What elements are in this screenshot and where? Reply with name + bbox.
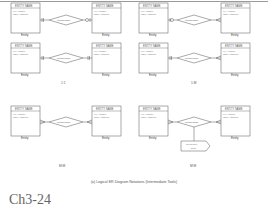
entity-other-attr: Other Attributes [141, 116, 157, 118]
entity-label: Entity [102, 136, 110, 140]
entity-key-attr: Key Attribute [141, 50, 154, 52]
er-pair-row2-right: ENTITY NAME Key Attribute Other Attribut… [139, 43, 250, 85]
entity-other-attr: Other Attributes [141, 13, 157, 15]
entity-label: Entity [21, 33, 29, 37]
relationship-label: Relationship [185, 57, 199, 60]
entity-box: ENTITY NAME Key Attribute Other Attribut… [139, 106, 168, 136]
entity-box: ENTITY NAME Key Attribute Other Attribut… [92, 106, 121, 136]
entity-key-attr: Key Attribute [94, 113, 107, 115]
entity-name: ENTITY NAME [143, 4, 161, 8]
relationship-label: Relationship [185, 121, 199, 124]
entity-name: ENTITY NAME [15, 44, 33, 48]
intersection-label: Data [191, 147, 196, 149]
zero-circle-icon [171, 19, 174, 22]
entity-box: ENTITY NAME Key Attribute Other Attribut… [92, 3, 121, 33]
entity-label: Entity [21, 73, 29, 77]
relationship-diamond: Relationship [177, 117, 211, 127]
entity-label: Entity [231, 33, 239, 37]
entity-box: ENTITY NAME Key Attribute Other Attribut… [11, 43, 40, 73]
entity-label: Entity [102, 73, 110, 77]
relationship-label: Relationship [57, 121, 71, 124]
relationship-label: Relationship [57, 19, 71, 22]
entity-other-attr: Other Attributes [13, 53, 29, 55]
relationship-diamond: Relationship [177, 15, 211, 25]
entity-key-attr: Key Attribute [141, 10, 154, 12]
entity-box: ENTITY NAME Key Attribute Other Attribut… [221, 43, 250, 73]
relationship-label: Relationship [185, 19, 199, 22]
entity-other-attr: Other Attributes [13, 116, 29, 118]
entity-label: Entity [149, 73, 157, 77]
entity-name: ENTITY NAME [225, 4, 243, 8]
cardinality-caption: M:M [59, 164, 66, 168]
entity-key-attr: Key Attribute [13, 10, 26, 12]
entity-label: Entity [231, 73, 239, 77]
entity-name: ENTITY NAME [96, 44, 114, 48]
entity-box: ENTITY NAME Key Attribute Other Attribut… [139, 3, 168, 33]
er-pair-row1-left: ENTITY NAME Key Attribute Other Attribut… [11, 3, 121, 37]
er-pair-row1-right: ENTITY NAME Key Attribute Other Attribut… [139, 3, 250, 37]
entity-key-attr: Key Attribute [223, 10, 236, 12]
relationship-diamond: Relationship [49, 15, 83, 25]
entity-label: Entity [149, 33, 157, 37]
entity-name: ENTITY NAME [143, 44, 161, 48]
relationship-diamond: Relationship [49, 53, 83, 63]
entity-name: ENTITY NAME [225, 107, 243, 111]
entity-name: ENTITY NAME [143, 107, 161, 111]
entity-key-attr: Key Attribute [223, 50, 236, 52]
entity-other-attr: Other Attributes [94, 13, 110, 15]
entity-name: ENTITY NAME [96, 107, 114, 111]
entity-key-attr: Key Attribute [13, 113, 26, 115]
relationship-label: Relationship [57, 57, 71, 60]
entity-other-attr: Other Attributes [223, 13, 239, 15]
entity-label: Entity [149, 136, 157, 140]
entity-name: ENTITY NAME [15, 107, 33, 111]
entity-box: ENTITY NAME Key Attribute Other Attribut… [221, 3, 250, 33]
entity-box: ENTITY NAME Key Attribute Other Attribut… [221, 106, 250, 136]
cardinality-caption: M:M [190, 164, 197, 168]
cardinality-caption: 1:M [191, 81, 197, 85]
intersection-label: Intersection [186, 143, 198, 145]
entity-label: Entity [231, 136, 239, 140]
entity-key-attr: Key Attribute [13, 50, 26, 52]
cardinality-caption: 1:1 [61, 81, 66, 85]
entity-key-attr: Key Attribute [94, 50, 107, 52]
entity-other-attr: Other Attributes [141, 53, 157, 55]
entity-other-attr: Other Attributes [94, 53, 110, 55]
entity-name: ENTITY NAME [225, 44, 243, 48]
figure-caption: (a) Logical ER Diagram Notations (Interm… [0, 180, 268, 184]
entity-other-attr: Other Attributes [223, 116, 239, 118]
entity-label: Entity [21, 136, 29, 140]
entity-box: ENTITY NAME Key Attribute Other Attribut… [11, 3, 40, 33]
relationship-diamond: Relationship [49, 117, 83, 127]
er-pair-row3-right: ENTITY NAME Key Attribute Other Attribut… [139, 106, 250, 168]
entity-other-attr: Other Attributes [223, 53, 239, 55]
entity-box: ENTITY NAME Key Attribute Other Attribut… [139, 43, 168, 73]
relationship-diamond: Relationship [177, 53, 211, 63]
entity-other-attr: Other Attributes [13, 13, 29, 15]
entity-key-attr: Key Attribute [223, 113, 236, 115]
slide-label: Ch3-24 [9, 192, 51, 208]
er-pair-row3-left: ENTITY NAME Key Attribute Other Attribut… [11, 106, 121, 168]
entity-box: ENTITY NAME Key Attribute Other Attribut… [92, 43, 121, 73]
zero-circle-icon [86, 19, 89, 22]
entity-key-attr: Key Attribute [94, 10, 107, 12]
entity-name: ENTITY NAME [15, 4, 33, 8]
entity-other-attr: Other Attributes [94, 116, 110, 118]
entity-box: ENTITY NAME Key Attribute Other Attribut… [11, 106, 40, 136]
entity-label: Entity [102, 33, 110, 37]
er-pair-row2-left: ENTITY NAME Key Attribute Other Attribut… [11, 43, 121, 85]
entity-name: ENTITY NAME [96, 4, 114, 8]
entity-key-attr: Key Attribute [141, 113, 154, 115]
